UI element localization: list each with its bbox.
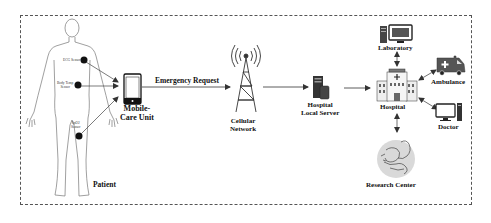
- spo2-sensor-label: SpO2 Sensor: [71, 121, 81, 129]
- cellular-tower-icon: [232, 45, 261, 112]
- hospital-building-icon: [377, 69, 417, 101]
- body-temp-sensor-label: Body Temp Sensor: [57, 81, 73, 89]
- mobile-phone-icon: [124, 74, 141, 104]
- emergency-request-label: Emergency Request: [155, 76, 219, 85]
- hospital-local-server-label: Hospital Local Server: [301, 101, 339, 117]
- doctor-computer-icon: [436, 103, 462, 121]
- mobile-care-unit-label: Mobile- Care Unit: [120, 104, 154, 122]
- doctor-label: Doctor: [438, 123, 459, 132]
- research-center-label: Research Center: [366, 181, 416, 190]
- human-body-icon: [26, 19, 118, 196]
- ambulance-label: Ambulance: [431, 78, 465, 87]
- ecg-sensor-label: ECG Sensor: [63, 58, 80, 62]
- hospital-label: Hospital: [380, 103, 405, 112]
- research-center-icon: [377, 140, 415, 178]
- cellular-network-label: Cellular Network: [230, 117, 256, 133]
- body-temp-sensor-icon: [75, 82, 82, 89]
- laboratory-computer-icon: [380, 25, 412, 43]
- ambulance-icon: [437, 56, 465, 75]
- diagram-canvas: [0, 0, 491, 223]
- server-icon: [313, 76, 329, 99]
- laboratory-label: Laboratory: [378, 44, 413, 53]
- patient-label: Patient: [93, 180, 116, 189]
